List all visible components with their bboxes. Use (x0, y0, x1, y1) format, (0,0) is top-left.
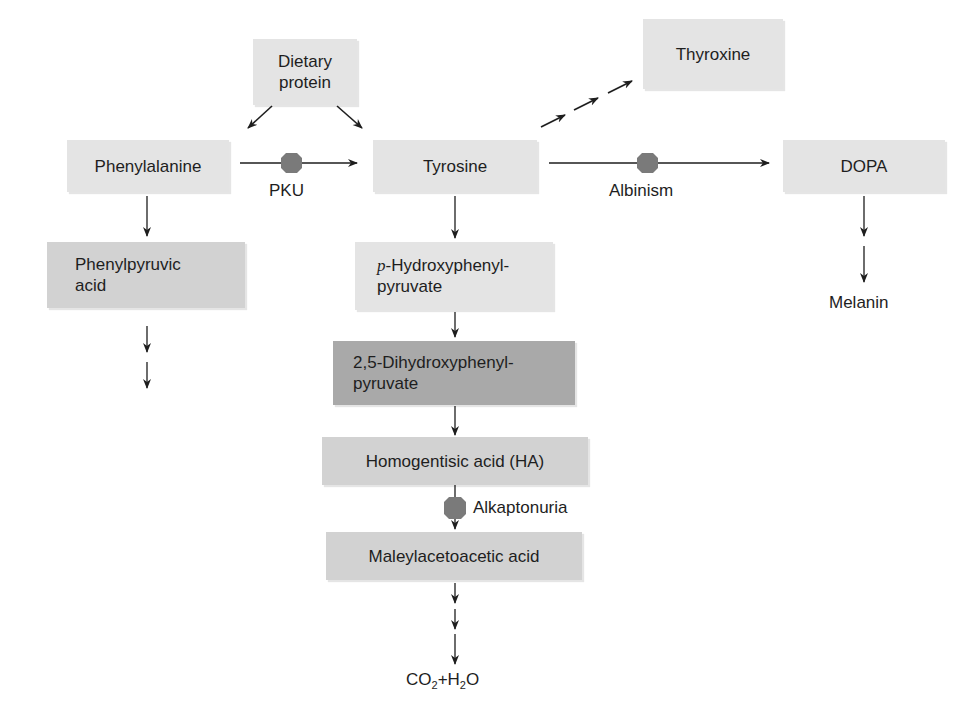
node-homogentisic-acid: Homogentisic acid (HA) (322, 437, 588, 485)
node-hpp-line1-text: -Hydroxyphenyl- (386, 256, 510, 275)
node-phenylpyruvic-acid: Phenylpyruvic acid (47, 242, 245, 308)
node-phenylpyruvic-acid-line2: acid (75, 275, 245, 296)
node-maleylacetoacetic-acid: Maleylacetoacetic acid (326, 532, 582, 580)
node-dietary-protein: Dietary protein (253, 39, 357, 105)
arrow-protein-to-tyrosine (337, 106, 362, 128)
arrow-protein-to-phenylalanine (248, 106, 272, 128)
italic-p: p (377, 256, 386, 275)
alkaptonuria-block-icon (444, 497, 466, 519)
node-dihydroxy-line2: pyruvate (353, 373, 575, 394)
label-albinism: Albinism (609, 181, 673, 201)
node-melanin: Melanin (829, 293, 889, 313)
node-maleylacetoacetic-acid-label: Maleylacetoacetic acid (368, 546, 539, 567)
node-thyroxine-label: Thyroxine (676, 44, 751, 65)
arrow-thyroxine-2 (574, 98, 598, 110)
node-tyrosine-label: Tyrosine (423, 156, 487, 177)
node-dietary-protein-line2: protein (279, 72, 331, 93)
o-text: O (466, 670, 479, 689)
node-dihydroxyphenylpyruvate: 2,5-Dihydroxyphenyl- pyruvate (333, 341, 575, 405)
label-pku: PKU (269, 181, 304, 201)
node-dopa: DOPA (783, 140, 945, 192)
node-phenylpyruvic-acid-line1: Phenylpyruvic (75, 254, 245, 275)
label-alkaptonuria: Alkaptonuria (473, 498, 568, 518)
arrow-thyroxine-1 (541, 115, 565, 127)
node-tyrosine: Tyrosine (373, 140, 537, 192)
albinism-block-icon (637, 153, 658, 173)
node-phenylalanine: Phenylalanine (67, 140, 229, 192)
node-thyroxine: Thyroxine (643, 19, 783, 89)
node-dihydroxy-line1: 2,5-Dihydroxyphenyl- (353, 352, 575, 373)
co-text: CO (406, 670, 432, 689)
node-p-hydroxyphenylpyruvate: p-Hydroxyphenyl- pyruvate (355, 242, 553, 310)
node-hpp-line1: p-Hydroxyphenyl- (377, 255, 553, 276)
plus-h-text: +H (438, 670, 460, 689)
node-dopa-label: DOPA (841, 156, 888, 177)
node-homogentisic-acid-label: Homogentisic acid (HA) (366, 451, 545, 472)
arrow-thyroxine-3 (608, 81, 632, 93)
node-dietary-protein-line1: Dietary (278, 51, 332, 72)
pku-block-icon (281, 153, 302, 173)
node-phenylalanine-label: Phenylalanine (95, 156, 202, 177)
node-end-products: CO2+H2O (406, 670, 479, 690)
node-hpp-line2: pyruvate (377, 276, 553, 297)
